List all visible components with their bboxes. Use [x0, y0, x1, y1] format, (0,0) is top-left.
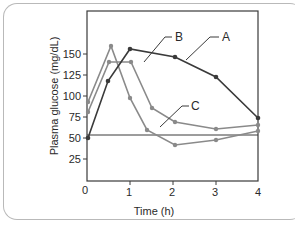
y-tick-150: 150: [63, 48, 81, 60]
y-tick-50: 50: [69, 132, 81, 144]
label-a: A: [222, 30, 230, 44]
x-axis-title: Time (h): [134, 205, 175, 217]
x-tick-2: 2: [169, 186, 175, 198]
x-tick-0: 0: [82, 184, 88, 196]
x-tick-1: 1: [126, 186, 132, 198]
y-axis-title: Plasma glucose (mg/dL): [48, 37, 60, 156]
label-b: B: [175, 30, 183, 44]
y-tick-75: 75: [69, 111, 81, 123]
y-tick-25: 25: [69, 153, 81, 165]
glucose-chart: 150 125 100 75 50 25 0 1 2 3 4 Time (h) …: [0, 0, 295, 225]
x-axis-ticks: [130, 181, 216, 185]
x-axis-labels: 0 1 2 3 4: [82, 184, 261, 198]
y-tick-125: 125: [63, 69, 81, 81]
label-c: C: [191, 99, 200, 113]
annotation-leaders: [144, 37, 219, 127]
series-a: [86, 47, 261, 141]
plot-area: [87, 11, 258, 181]
y-axis-labels: 150 125 100 75 50 25: [63, 48, 81, 165]
x-tick-4: 4: [255, 186, 261, 198]
y-tick-100: 100: [63, 90, 81, 102]
x-tick-3: 3: [212, 186, 218, 198]
